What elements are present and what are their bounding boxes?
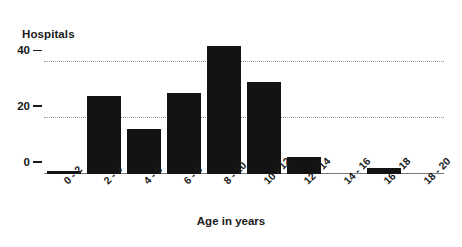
x-axis-tick-labels: 0 - 22 - 44 - 66 - 88 - 1010 - 1212 - 14… [44,176,444,216]
bar-series [44,40,444,174]
y-axis-tick-mark [33,161,42,163]
y-axis-title: Hospitals [22,28,75,40]
y-axis-tick: 20 [17,100,44,112]
bar [207,46,241,174]
plot-area: 02040 [44,40,444,174]
y-axis-tick: 0 [24,156,44,168]
y-axis-tick-mark [33,105,42,107]
bar-chart: Hospitals 02040 0 - 22 - 44 - 66 - 88 - … [0,0,462,247]
bar [167,93,201,174]
y-axis-tick-label: 0 [24,156,30,168]
y-axis-tick-label: 40 [17,44,30,56]
x-axis-title: Age in years [0,215,462,227]
y-axis-tick-mark [33,50,42,52]
y-axis-tick-label: 20 [17,100,30,112]
y-axis-tick: 40 [17,44,44,56]
bar [247,82,281,174]
